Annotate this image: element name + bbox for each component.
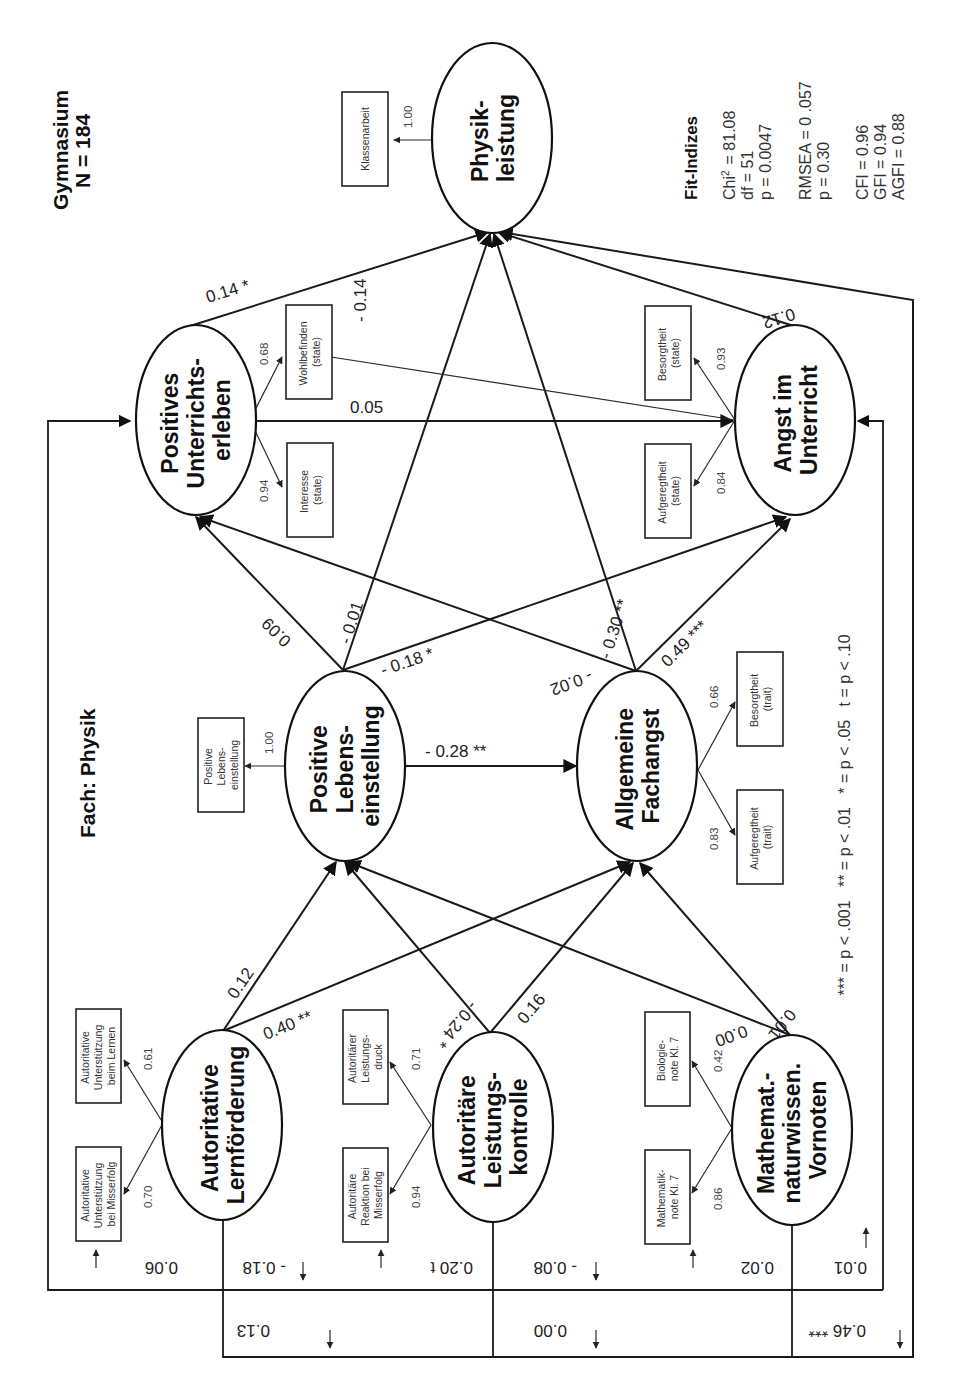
latent-allgemeine-fachangst: Allgemeine Fachangst	[577, 671, 697, 861]
fit-indices-panel: Fit-Indizes Chi2= 81.08 df = 51 p = 0.00…	[682, 81, 907, 200]
svg-text:GFI = 0.94: GFI = 0.94	[872, 124, 889, 200]
frame-direction-arrows	[96, 1228, 900, 1348]
svg-text:1.00: 1.00	[402, 106, 414, 128]
manifest-unterstuetzung-misserfolg: Autoritative Unterstützung bei Misserfol…	[76, 1147, 121, 1241]
svg-text:1.00: 1.00	[263, 732, 275, 754]
svg-text:0.71: 0.71	[410, 1048, 422, 1070]
significance-legend: *** = p < .001 ** = p < .01 * = p < .05 …	[836, 634, 853, 995]
svg-text:Allgemeine Fachangst: Allgemeine Fachangst	[612, 701, 664, 830]
latent-positive-lebenseinstellung: Positive Lebens- einstellung	[285, 671, 405, 861]
svg-text:Positive Lebens- e: Positive Lebens- einstellung	[202, 740, 240, 790]
svg-text:0.16: 0.16	[514, 990, 550, 1028]
svg-text:0.68: 0.68	[258, 343, 270, 365]
latent-positives-unterrichtserleben: Positives Unterrichts- erleben	[136, 325, 256, 515]
latent-vornoten: Mathemat.- naturwissen. Vornoten	[732, 1035, 852, 1225]
svg-text:Autoritative Lernförderu: Autoritative Lernförderung	[197, 1046, 249, 1204]
svg-text:0.66: 0.66	[708, 686, 720, 708]
svg-text:0.84: 0.84	[715, 471, 727, 494]
svg-text:Autoritative Unterstützu: Autoritative Unterstützung beim Lernen	[79, 1022, 117, 1090]
svg-text:0.42: 0.42	[712, 1050, 724, 1072]
svg-text:0.12: 0.12	[224, 964, 258, 1002]
svg-text:- 0.18: - 0.18	[243, 1258, 286, 1277]
svg-text:0.83: 0.83	[708, 828, 720, 850]
svg-text:0.05: 0.05	[350, 398, 383, 417]
manifest-positive-lebenseinstellung: Positive Lebens- einstellung	[198, 718, 244, 812]
manifest-reaktion-misserfolg: Autoritäre Reaktion bei Misserfolg	[343, 1148, 388, 1242]
manifest-unterstuetzung-lernen: Autoritative Unterstützung beim Lernen	[76, 1009, 121, 1103]
svg-text:- 0.08: - 0.08	[534, 1258, 577, 1277]
svg-text:- 0.02: - 0.02	[548, 666, 595, 699]
svg-text:Autoritative Unterstützu: Autoritative Unterstützung bei Misserfol…	[79, 1160, 117, 1228]
manifest-klassenarbeit: Klassenarbeit	[342, 92, 388, 186]
latent-autoritaere-leistungskontrolle: Autoritäre Leistungs- kontrolle	[433, 1032, 553, 1222]
school-type: Gymnasium	[49, 90, 72, 210]
svg-text:0.00: 0.00	[534, 1321, 567, 1340]
svg-text:- 0.14: - 0.14	[351, 279, 370, 322]
svg-text:0.94: 0.94	[258, 479, 270, 502]
direct-path-coefficients: 0.06 0.13 - 0.18 0.20 t 0.00 - 0.08 0.02…	[145, 1258, 867, 1340]
svg-text:df = 51: df = 51	[739, 151, 756, 200]
manifest-biologienote: Biologie- note Kl. 7	[645, 1012, 690, 1106]
header-labels: Gymnasium N = 184 Fach: Physik	[49, 90, 99, 838]
svg-text:Mathematik- note Kl. 7: Mathematik- note Kl. 7	[655, 1167, 680, 1228]
sem-path-diagram: Physik- leistung Positives Unterrichts- …	[0, 0, 962, 1397]
svg-text:0.01: 0.01	[834, 1258, 867, 1277]
svg-text:0.49 ***: 0.49 ***	[657, 616, 711, 670]
svg-text:0.14 *: 0.14 *	[204, 276, 252, 307]
sample-size: N = 184	[71, 114, 94, 188]
manifest-leistungsdruck: Autoritärer Leistungs- druck	[343, 1010, 388, 1104]
latent-angst-im-unterricht: Angst im Unterricht	[735, 325, 855, 515]
svg-text:Fit-Indizes: Fit-Indizes	[682, 116, 701, 200]
svg-text:0.02: 0.02	[741, 1258, 774, 1277]
svg-text:0.70: 0.70	[142, 1186, 154, 1208]
manifest-mathenote: Mathematik- note Kl. 7	[645, 1150, 690, 1244]
svg-text:Autoritäre Reaktion bei: Autoritäre Reaktion bei Misserfolg	[346, 1164, 384, 1225]
manifest-besorgtheit-state: Besorgtheit (state)	[645, 306, 691, 400]
svg-text:0.13: 0.13	[237, 1321, 270, 1340]
svg-text:AGFI = 0.88: AGFI = 0.88	[890, 113, 907, 200]
svg-text:Physik- leistung: Physik- leistung	[467, 94, 519, 182]
manifest-wohlbefinden: Wohlbefinden (state)	[286, 305, 332, 399]
svg-text:Klassenarbeit: Klassenarbeit	[359, 107, 371, 171]
svg-text:Angst im Unterricht: Angst im Unterricht	[770, 365, 822, 475]
svg-text:0.61: 0.61	[142, 1048, 154, 1070]
svg-text:Autoritäre Leistungs-: Autoritäre Leistungs- kontrolle	[454, 1066, 532, 1189]
svg-text:Biologie- note Kl. 7: Biologie- note Kl. 7	[655, 1037, 680, 1082]
manifest-besorgtheit-trait: Besorgtheit (trait)	[737, 652, 783, 746]
svg-text:0.09: 0.09	[258, 614, 295, 651]
svg-text:- 0.30 **: - 0.30 **	[596, 597, 633, 662]
manifest-interesse: Interesse (state)	[287, 443, 333, 537]
svg-text:Positive Lebens- e: Positive Lebens- einstellung	[306, 705, 384, 826]
svg-text:RMSEA = 0 .057: RMSEA = 0 .057	[797, 81, 814, 200]
svg-text:0.20 t: 0.20 t	[430, 1258, 473, 1277]
svg-text:0.00: 0.00	[713, 1021, 751, 1050]
svg-text:- 0.28 **: - 0.28 **	[425, 742, 487, 761]
svg-text:0.94: 0.94	[410, 1185, 422, 1208]
latent-autoritative-lernfoerderung: Autoritative Lernförderung	[162, 1030, 282, 1220]
svg-text:CFI = 0.96: CFI = 0.96	[854, 125, 871, 200]
svg-text:p = 0.0047: p = 0.0047	[757, 124, 774, 200]
svg-text:0.93: 0.93	[715, 348, 727, 370]
svg-text:0.46 ***: 0.46 ***	[808, 1321, 866, 1340]
svg-text:Chi2= 81.08: Chi2= 81.08	[720, 110, 738, 200]
subject-label: Fach: Physik	[76, 708, 99, 838]
latent-physikleistung: Physik- leistung	[432, 43, 552, 233]
manifest-aufgeregtheit-state: Aufgeregtheit (state)	[645, 444, 691, 538]
svg-text:- 0.01: - 0.01	[336, 599, 368, 646]
svg-text:0.86: 0.86	[712, 1188, 724, 1210]
svg-text:0.06: 0.06	[145, 1258, 178, 1277]
manifest-aufgeregtheit-trait: Aufgeregtheit (trait)	[737, 790, 783, 884]
svg-text:- 0.18 *: - 0.18 *	[378, 644, 436, 680]
svg-text:p = 0.30: p = 0.30	[815, 142, 832, 200]
